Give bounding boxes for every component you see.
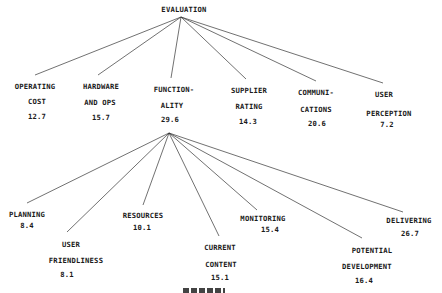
edge-func-current-content: [169, 133, 219, 236]
node-label-line1: POTENTIAL: [352, 247, 393, 254]
edge-root-functionality: [171, 17, 181, 78]
edge-root-operating-cost: [35, 17, 181, 75]
node-label-line2: ALITY: [161, 102, 184, 109]
node-label-line2: CATIONS: [300, 106, 332, 113]
node-label-line2: DEVELOPMENT: [342, 263, 392, 270]
node-weight: 10.1: [133, 224, 151, 231]
node-weight: 15.7: [92, 114, 110, 121]
node-label-line1: SUPPLIER: [231, 87, 267, 94]
node-weight: 29.6: [161, 116, 179, 123]
edge-root-supplier: [181, 17, 246, 79]
node-weight: 16.4: [355, 277, 373, 284]
node-label-line2: CONTENT: [205, 261, 237, 268]
node-label-line1: DELIVERING: [386, 217, 431, 224]
node-weight: 26.7: [401, 230, 419, 237]
node-label-line1: USER: [375, 91, 393, 98]
node-weight: 7.2: [380, 121, 394, 128]
edge-root-user-perception: [181, 17, 383, 83]
node-weight: 20.6: [308, 120, 326, 127]
node-weight: 8.4: [20, 222, 34, 229]
node-label-line1: RESOURCES: [123, 212, 164, 219]
node-label-line2: COST: [28, 98, 46, 105]
figure-caption-cropped: [183, 288, 225, 293]
node-weight: 14.3: [239, 118, 257, 125]
edge-func-monitoring: [169, 133, 257, 210]
node-label-line1: MONITORING: [240, 215, 285, 222]
node-label-line2: RATING: [235, 103, 262, 110]
node-weight: 15.4: [261, 226, 279, 233]
edge-root-hardware: [98, 17, 181, 75]
node-weight: 15.1: [211, 274, 229, 281]
node-label-line1: FUNCTION-: [154, 86, 195, 93]
node-label-line1: USER: [62, 241, 80, 248]
node-label-line1: OPERATING: [15, 83, 56, 90]
node-label-line1: COMMUNI-: [298, 89, 334, 96]
edge-func-delivering: [169, 133, 403, 212]
node-label-line1: CURRENT: [204, 244, 236, 251]
node-weight: 8.1: [60, 271, 74, 278]
node-weight: 12.7: [28, 113, 46, 120]
node-label-line1: PLANNING: [9, 211, 45, 218]
edge-root-communications: [181, 17, 316, 81]
root-node-label: EVALUATION: [161, 6, 206, 13]
node-label-line1: HARDWARE: [83, 83, 119, 90]
node-label-line2: PERCEPTION: [366, 110, 411, 117]
node-label-line2: FRIENDLINESS: [49, 257, 103, 264]
node-label-line2: AND OPS: [84, 99, 116, 106]
evaluation-hierarchy-diagram: EVALUATION OPERATING COST 12.7 HARDWARE …: [0, 0, 442, 293]
